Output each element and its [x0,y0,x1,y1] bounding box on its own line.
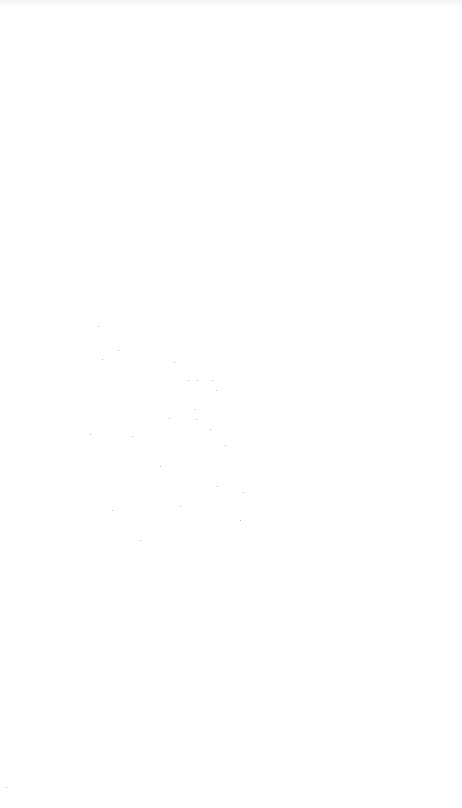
speck [90,434,91,435]
speck [212,380,213,381]
speck [174,362,175,363]
speck [243,492,244,493]
speck [216,390,217,391]
speck [225,445,226,446]
speck [240,520,241,521]
speck [98,326,99,327]
speck [140,540,141,541]
speck [197,380,198,381]
speck [180,506,181,507]
speck [102,359,103,360]
speck [112,510,113,511]
speck [132,436,133,437]
speck [195,409,196,410]
speck [210,429,211,430]
speck [188,380,189,381]
speck [6,787,7,788]
speck [196,419,197,420]
top-edge-shade [0,0,462,6]
speck [118,350,119,351]
speck [169,418,170,419]
speck [160,466,161,467]
speck [217,486,218,487]
